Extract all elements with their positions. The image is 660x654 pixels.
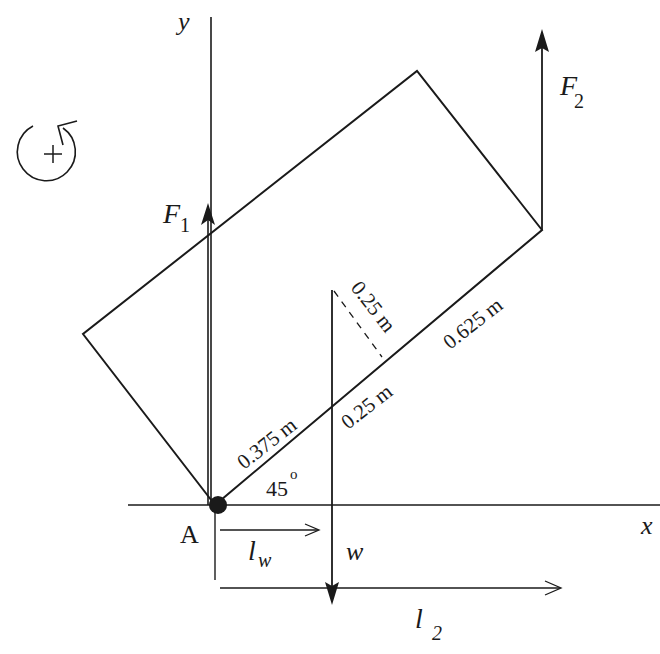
- f2-subscript: 2: [574, 90, 584, 112]
- pivot-label: A: [180, 520, 199, 549]
- pivot-point: [209, 496, 227, 514]
- dimension-025-base: 0.25 m: [336, 379, 397, 434]
- y-axis-label: y: [175, 7, 190, 36]
- x-axis-label: x: [640, 511, 653, 540]
- lw-label: l: [248, 535, 256, 566]
- angle-degree: o: [290, 466, 298, 482]
- block-rectangle: [83, 71, 542, 505]
- dimension-0375: 0.375 m: [232, 413, 301, 474]
- l2-label: l: [415, 603, 423, 634]
- f1-label: F: [162, 198, 181, 229]
- dimension-025-perp: 0.25 m: [346, 276, 401, 337]
- ccw-rotation-icon: [17, 121, 77, 181]
- f1-subscript: 1: [180, 214, 190, 236]
- dimension-0625: 0.625 m: [438, 293, 507, 354]
- angle-label: 45: [266, 476, 288, 501]
- l2-subscript: 2: [432, 622, 442, 644]
- lw-subscript: w: [258, 549, 272, 571]
- free-body-diagram: y x A F 1 F 2 w l w l 2 45 o 0.375 m 0.2…: [0, 0, 660, 654]
- weight-label: w: [346, 537, 364, 566]
